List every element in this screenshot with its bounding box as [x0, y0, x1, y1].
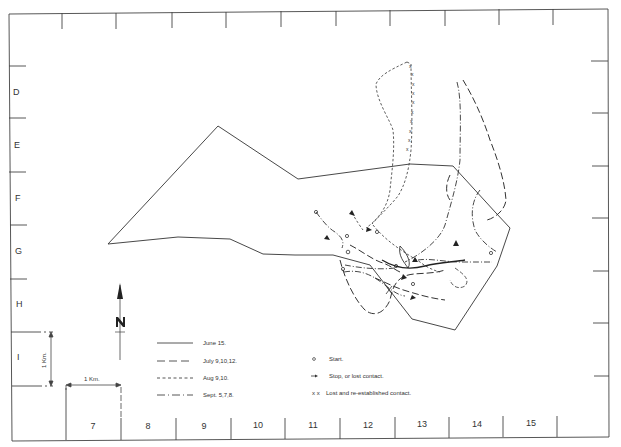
col-label-12: 12 [363, 420, 373, 430]
scale-bars [49, 332, 121, 418]
legend-aug: Aug 9,10. [203, 375, 229, 381]
svg-text:x: x [406, 146, 409, 152]
svg-text:x: x [412, 90, 415, 96]
row-label-f: F [15, 193, 21, 203]
lost-contact-markers: x x x x x x x x x x [406, 63, 415, 152]
scale-vertical-label: 1 Km. [41, 352, 47, 368]
col-label-9: 9 [201, 421, 206, 431]
col-label-13: 13 [417, 419, 427, 429]
start-symbol-icon [313, 358, 316, 361]
svg-text:x: x [412, 99, 415, 105]
row-label-i: I [17, 352, 20, 362]
row-label-g: G [15, 246, 22, 256]
svg-text:x: x [409, 63, 412, 69]
col-label-10: 10 [253, 420, 263, 430]
legend-start: Start. [329, 356, 343, 362]
legend-stop: Stop, or lost contact. [329, 373, 384, 379]
scale-horizontal-label: 1 Km. [84, 376, 100, 382]
start-markers [314, 210, 492, 285]
track-sept-5-7-8 [316, 82, 497, 296]
legend-line-samples [157, 343, 193, 395]
col-label-11: 11 [308, 420, 317, 430]
legend-sept: Sept. 5,7,8. [203, 392, 234, 398]
legend-symbols [311, 358, 318, 378]
svg-text:x: x [408, 137, 411, 143]
col-label-7: 7 [90, 421, 95, 431]
loop-path-lower [450, 268, 467, 288]
svg-text:x: x [412, 81, 415, 87]
svg-text:x: x [411, 109, 414, 115]
col-label-15: 15 [526, 418, 536, 428]
loop-path [400, 246, 410, 268]
col-label-14: 14 [472, 419, 482, 429]
svg-text:x: x [410, 118, 413, 124]
svg-text:x: x [411, 71, 414, 77]
row-label-h: H [16, 299, 23, 309]
row-label-e: E [14, 140, 20, 150]
legend-june: June 15. [203, 340, 226, 346]
track-aug-9-10 [352, 62, 440, 272]
legend-july: July 9,10,12. [203, 358, 237, 364]
track-june-15 [108, 126, 510, 330]
col-label-8: 8 [145, 421, 150, 431]
legend-lost-symbol: x x [312, 390, 320, 396]
north-arrow-icon [115, 283, 125, 360]
row-label-d: D [13, 87, 20, 97]
legend-lost: Lost and re-established contact. [326, 390, 411, 396]
